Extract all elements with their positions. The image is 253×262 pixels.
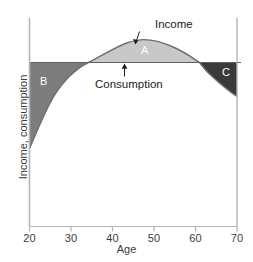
chart-figure: 20 30 40 50 60 70 Age Income, consumptio… bbox=[0, 0, 253, 262]
chart-plot-area bbox=[0, 0, 253, 262]
region-label-b: B bbox=[40, 75, 47, 87]
region-label-c: C bbox=[222, 66, 230, 78]
shaded-region-c bbox=[200, 63, 238, 97]
x-axis-title: Age bbox=[0, 243, 253, 255]
consumption-annotation-label: Consumption bbox=[95, 78, 163, 90]
y-axis-title: Income, consumption bbox=[17, 47, 29, 207]
consumption-annotation-arrow bbox=[122, 63, 128, 76]
income-annotation-label: Income bbox=[155, 18, 193, 30]
region-label-a: A bbox=[141, 44, 148, 56]
shaded-region-b bbox=[30, 63, 89, 149]
x-axis-ticks bbox=[30, 227, 238, 232]
